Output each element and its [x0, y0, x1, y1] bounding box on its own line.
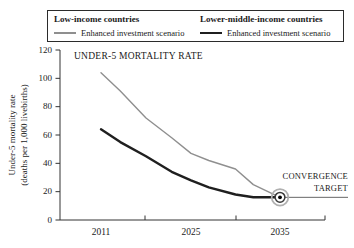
y-tick-label: 0 — [25, 215, 52, 226]
plot-area — [0, 0, 354, 248]
convergence-target-label-line2: TARGET — [245, 183, 348, 195]
y-tick-label: 80 — [25, 101, 52, 112]
y-tick-label: 20 — [25, 186, 52, 197]
y-tick-label: 100 — [25, 73, 52, 84]
y-tick-label: 60 — [25, 130, 52, 141]
convergence-target-icon-dot — [278, 195, 282, 199]
mortality-chart-figure: Low-income countries Enhanced investment… — [0, 0, 354, 248]
x-tick-label: 2035 — [260, 227, 300, 238]
y-tick-label: 40 — [25, 158, 52, 169]
convergence-target-label: CONVERGENCE TARGET — [245, 171, 348, 194]
x-tick-label: 2011 — [81, 227, 121, 238]
y-tick-label: 120 — [25, 45, 52, 56]
axis-lines — [60, 50, 325, 220]
x-tick-label: 2025 — [171, 227, 211, 238]
convergence-target-label-line1: CONVERGENCE — [245, 171, 348, 183]
